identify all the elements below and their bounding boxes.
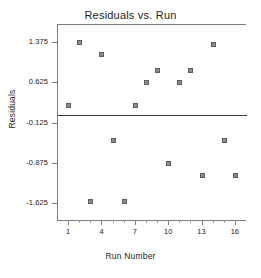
x-axis-minor-tick bbox=[90, 220, 91, 223]
y-axis-label: Residuals bbox=[7, 74, 17, 144]
plot-inner bbox=[58, 25, 246, 220]
x-axis-minor-tick bbox=[146, 220, 147, 223]
x-axis-tick-label: 13 bbox=[197, 227, 205, 236]
x-axis-minor-tick bbox=[190, 220, 191, 223]
x-axis-tick-label: 7 bbox=[133, 227, 137, 236]
y-axis-tick-label: 0.625 bbox=[29, 77, 48, 86]
data-point bbox=[177, 80, 182, 85]
x-axis-tick-label: 10 bbox=[164, 227, 172, 236]
data-point bbox=[77, 40, 82, 45]
x-axis-tick bbox=[202, 220, 203, 225]
x-axis-tick bbox=[235, 220, 236, 225]
y-axis-tick-label: -0.125 bbox=[26, 118, 48, 127]
data-point bbox=[122, 199, 127, 204]
x-axis-tick bbox=[135, 220, 136, 225]
x-axis-minor-tick bbox=[79, 220, 80, 223]
y-axis-tick-label: -1.625 bbox=[26, 198, 48, 207]
data-point bbox=[111, 138, 116, 143]
chart-title: Residuals vs. Run bbox=[0, 9, 261, 21]
x-axis-tick-label: 1 bbox=[66, 227, 70, 236]
data-point bbox=[200, 173, 205, 178]
data-point bbox=[233, 173, 238, 178]
x-axis-minor-tick bbox=[113, 220, 114, 223]
x-axis-tick bbox=[68, 220, 69, 225]
data-point bbox=[133, 103, 138, 108]
x-axis-tick bbox=[168, 220, 169, 225]
data-point bbox=[188, 68, 193, 73]
plot-area bbox=[57, 24, 246, 220]
x-axis-minor-tick bbox=[213, 220, 214, 223]
x-axis-tick-label: 4 bbox=[99, 227, 103, 236]
reference-line bbox=[58, 115, 247, 116]
x-axis-minor-tick bbox=[179, 220, 180, 223]
data-point bbox=[155, 68, 160, 73]
y-axis-tick-label: 1.375 bbox=[29, 37, 48, 46]
x-axis-minor-tick bbox=[124, 220, 125, 223]
y-axis-tick-label: -0.875 bbox=[26, 158, 48, 167]
x-axis-line bbox=[57, 220, 246, 221]
x-axis-minor-tick bbox=[157, 220, 158, 223]
data-point bbox=[166, 161, 171, 166]
data-point bbox=[144, 80, 149, 85]
x-axis-tick-label: 16 bbox=[231, 227, 239, 236]
data-point bbox=[88, 199, 93, 204]
x-axis-minor-tick bbox=[224, 220, 225, 223]
data-point bbox=[211, 42, 216, 47]
residuals-vs-run-chart: Residuals vs. Run Residuals 1.3750.625-0… bbox=[0, 0, 261, 278]
x-axis-label: Run Number bbox=[0, 251, 261, 261]
data-point bbox=[66, 103, 71, 108]
data-point bbox=[222, 138, 227, 143]
data-point bbox=[99, 52, 104, 57]
x-axis-tick bbox=[101, 220, 102, 225]
